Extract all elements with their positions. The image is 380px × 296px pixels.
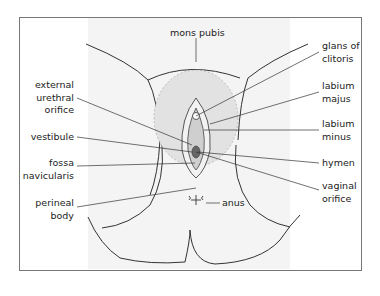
- label-external-urethral-orifice: externalurethralorifice: [35, 79, 74, 117]
- label-line: vaginal: [322, 180, 357, 193]
- label-hymen: hymen: [322, 157, 355, 170]
- label-line: glans of: [322, 40, 360, 53]
- label-vaginal-orifice: vaginalorifice: [322, 180, 357, 205]
- label-fossa-navicularis: fossanavicularis: [23, 157, 74, 182]
- label-line: fossa: [23, 157, 74, 170]
- label-line: urethral: [35, 92, 74, 105]
- label-line: orifice: [35, 104, 74, 117]
- label-anus: anus: [222, 197, 245, 210]
- label-line: navicularis: [23, 170, 74, 183]
- label-labium-majus: labiummajus: [322, 80, 354, 105]
- label-line: minus: [322, 131, 354, 144]
- label-line: body: [35, 210, 74, 223]
- label-line: labium: [322, 118, 354, 131]
- label-line: orifice: [322, 193, 357, 206]
- label-perineal-body: perinealbody: [35, 197, 74, 222]
- label-mons-pubis: mons pubis: [170, 27, 225, 40]
- label-glans-of-clitoris: glans ofclitoris: [322, 40, 360, 65]
- label-line: external: [35, 79, 74, 92]
- label-labium-minus: labiumminus: [322, 118, 354, 143]
- label-line: majus: [322, 93, 354, 106]
- label-line: perineal: [35, 197, 74, 210]
- label-line: clitoris: [322, 53, 360, 66]
- label-line: labium: [322, 80, 354, 93]
- label-vestibule: vestibule: [31, 131, 74, 144]
